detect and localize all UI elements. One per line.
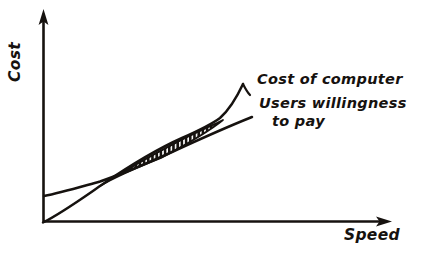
series-cost-of-computer-curve [43, 84, 243, 223]
sketch-drawing [0, 0, 425, 257]
series-label-users-willingness-line-2: to pay [272, 113, 325, 129]
x-axis [43, 216, 392, 226]
figure-canvas: Cost Speed Cost of computer Users willin… [0, 0, 425, 257]
x-axis-label: Speed [344, 226, 400, 244]
series-label-cost-of-computer: Cost of computer [257, 71, 403, 87]
series-label-users-willingness-line-1: Users willingness [259, 95, 407, 111]
leader-line-cost-of-computer [243, 84, 250, 95]
y-axis-label: Cost [6, 40, 24, 84]
y-axis [39, 9, 49, 223]
